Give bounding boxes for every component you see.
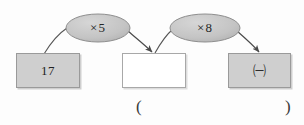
operator-ellipse-1	[66, 14, 130, 42]
diagram-canvas: ×5 ×8 17 ㈠ ( )	[0, 0, 304, 125]
connector-middle-to-op2	[155, 29, 173, 53]
connector-start-to-op1	[44, 28, 67, 54]
connector-op1-to-middle	[128, 31, 152, 52]
answer-close-paren: )	[285, 97, 291, 117]
circled-giyeok-marker: ㈠	[253, 64, 266, 77]
operator-ellipse-2	[170, 14, 240, 42]
output-box-answer: ㈠	[228, 53, 291, 88]
input-box-start-value: 17	[41, 63, 55, 79]
answer-open-paren: (	[136, 97, 142, 117]
input-box-start: 17	[16, 53, 80, 88]
connector-op2-to-end	[237, 31, 259, 52]
intermediate-box-blank[interactable]	[122, 53, 186, 88]
